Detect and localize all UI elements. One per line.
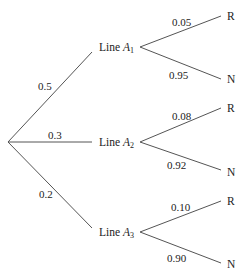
leaf-a1-r: R — [227, 10, 235, 22]
leaf-a2-n: N — [227, 166, 235, 178]
leaf-a1-n: N — [227, 73, 235, 85]
branch-root-a3 — [8, 142, 92, 228]
prob-a2-r: 0.08 — [172, 110, 191, 122]
prob-a1: 0.5 — [38, 80, 52, 92]
node-line-a2: Line A2 — [99, 136, 134, 152]
leaf-a3-r: R — [227, 195, 235, 207]
prob-a1-r: 0.05 — [172, 16, 191, 28]
node-line-a3: Line A3 — [99, 226, 134, 242]
prob-a2: 0.3 — [48, 129, 62, 141]
prob-a2-n: 0.92 — [167, 159, 186, 171]
prob-a1-n: 0.95 — [169, 69, 188, 81]
prob-a3-r: 0.10 — [171, 201, 190, 213]
leaf-a3-n: N — [227, 258, 235, 270]
prob-a3-n: 0.90 — [167, 252, 186, 264]
leaf-a2-r: R — [227, 102, 235, 114]
probability-tree-diagram: 0.5 0.3 0.2 Line A1 Line A2 Line A3 0.05… — [0, 0, 249, 273]
node-line-a1: Line A1 — [99, 41, 134, 57]
prob-a3: 0.2 — [39, 188, 53, 200]
